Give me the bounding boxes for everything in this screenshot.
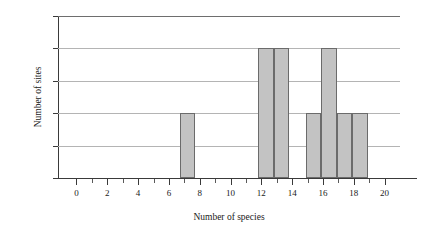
y-axis-tick — [53, 113, 58, 114]
x-axis-tick-label: 14 — [280, 189, 304, 198]
x-axis-title: Number of species — [58, 212, 400, 222]
x-axis-tick — [292, 179, 293, 185]
x-axis-tick-label: 8 — [188, 189, 212, 198]
x-axis-minor-tick — [215, 179, 216, 183]
x-axis-minor-tick — [154, 179, 155, 183]
gridline — [58, 48, 400, 49]
x-axis-tick — [200, 179, 201, 185]
x-axis-minor-tick — [92, 179, 93, 183]
histogram-bar — [258, 48, 273, 178]
x-axis-minor-tick — [246, 179, 247, 183]
x-axis-tick — [385, 179, 386, 185]
x-axis-tick — [261, 179, 262, 185]
y-axis-tick — [53, 146, 58, 147]
x-axis-tick-label: 0 — [64, 189, 88, 198]
x-axis-tick-label: 12 — [249, 189, 273, 198]
histogram-bar — [274, 48, 289, 178]
plot-area: 0.00.51.01.52.02.5 02468101214161820 Num… — [58, 16, 400, 178]
y-axis-tick — [53, 81, 58, 82]
gridline — [58, 81, 400, 82]
x-axis-tick — [76, 179, 77, 185]
x-axis-minor-tick — [123, 179, 124, 183]
x-axis-tick-label: 2 — [95, 189, 119, 198]
x-axis-minor-tick — [338, 179, 339, 183]
y-axis-tick — [53, 16, 58, 17]
y-axis-tick — [53, 178, 58, 179]
x-axis-tick-label: 18 — [342, 189, 366, 198]
x-axis-tick-label: 6 — [157, 189, 181, 198]
histogram-bar — [352, 113, 367, 178]
x-axis-minor-tick — [369, 179, 370, 183]
x-axis-tick-label: 16 — [311, 189, 335, 198]
x-axis-tick — [231, 179, 232, 185]
x-axis-tick-label: 10 — [219, 189, 243, 198]
y-axis-tick — [53, 48, 58, 49]
x-axis-minor-tick — [308, 179, 309, 183]
histogram-bar — [321, 48, 336, 178]
x-axis-minor-tick — [184, 179, 185, 183]
histogram-figure: 0.00.51.01.52.02.5 02468101214161820 Num… — [0, 0, 430, 229]
x-axis-tick — [107, 179, 108, 185]
x-axis-tick — [323, 179, 324, 185]
y-axis-title: Number of sites — [33, 67, 43, 128]
x-axis-line — [58, 178, 417, 179]
gridline — [58, 16, 400, 17]
histogram-bar — [306, 113, 321, 178]
histogram-bar — [180, 113, 195, 178]
histogram-bar — [337, 113, 352, 178]
x-axis-tick — [354, 179, 355, 185]
x-axis-tick — [138, 179, 139, 185]
x-axis-tick-label: 4 — [126, 189, 150, 198]
x-axis-minor-tick — [277, 179, 278, 183]
x-axis-tick-label: 20 — [373, 189, 397, 198]
x-axis-tick — [169, 179, 170, 185]
